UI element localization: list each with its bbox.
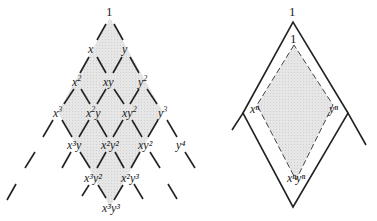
node-x3y3: x³y³ [101,201,120,215]
outer-apex-label: 1 [289,4,296,19]
node-y3: y3 [157,105,167,120]
node-1: 1 [106,4,113,19]
node-x3y2: x³y² [83,171,102,185]
node-xnyn: xⁿyⁿ [286,171,305,185]
left-lattice-diagram: 1 x y x2 xy y2 x3 x2y xy2 y3 x³y x²y² xy… [7,4,195,215]
node-y4: y⁴ [175,138,186,152]
node-xn: xⁿ [249,102,259,116]
node-xy2-b: xy² [137,138,153,152]
node-yn: yⁿ [328,102,338,116]
node-x2y2: x²y² [100,138,119,152]
inner-apex-label: 1 [290,31,297,46]
node-xy: xy [102,75,114,89]
node-x: x [87,42,94,56]
diagram-canvas: 1 x y x2 xy y2 x3 x2y xy2 y3 x³y x²y² xy… [0,0,377,221]
node-x2y3: x²y³ [120,171,139,185]
shaded-region [58,18,163,207]
node-y: y [121,42,128,56]
node-x3: x3 [52,105,62,120]
node-x3y: x³y [66,138,82,152]
right-region-diagram: 1 1 xⁿ yⁿ xⁿyⁿ [232,4,366,207]
